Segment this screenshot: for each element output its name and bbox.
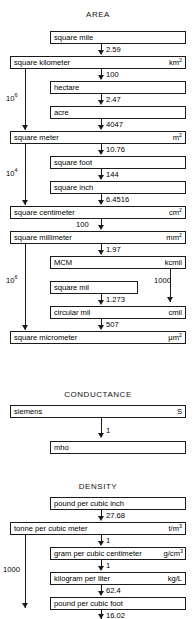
unit-label: tonne per cubic meter: [14, 525, 87, 533]
unit-box-circular-mil: circular mil cmil: [50, 306, 186, 319]
unit-box-square-mil: square mil: [50, 281, 138, 294]
unit-box-mcm: MCM kcmil: [50, 256, 186, 269]
unit-symbol: g/cm3: [164, 550, 183, 558]
bypass-line-tm3-down: [25, 535, 26, 608]
unit-label: hectare: [54, 84, 79, 92]
unit-box-acre: acre: [50, 106, 186, 119]
arrow-head-icon: [22, 125, 28, 130]
factor-hectare-to-acre: 2.47: [106, 96, 121, 104]
arrow-head-icon: [98, 100, 104, 105]
unit-box-square-inch: square inch: [50, 181, 186, 194]
arrow-head-icon: [98, 591, 104, 596]
factor-km2-to-m2: 106: [6, 95, 17, 103]
factor-mile-to-km2: 2.59: [106, 46, 121, 54]
unit-box-square-mile: square mile: [50, 31, 186, 44]
unit-symbol: S: [177, 408, 182, 416]
unit-box-square-meter: square meter m2: [10, 131, 186, 144]
unit-box-square-kilometer: square kilometer km2: [10, 56, 186, 69]
arrow-head-icon: [98, 325, 104, 330]
arrow-head-icon: [98, 125, 104, 130]
factor-mm2-to-mcm: 1.97: [106, 246, 121, 254]
factor-sqin-to-cm2: 6.4516: [106, 196, 129, 204]
arrow-head-icon: [22, 325, 28, 330]
arrow-head-icon: [98, 50, 104, 55]
factor-cmil-to-um2: 507: [106, 321, 119, 329]
unit-symbol: kg/L: [168, 575, 182, 583]
unit-symbol: t/m3: [168, 525, 182, 533]
arrow-head-icon: [22, 603, 28, 608]
factor-cm2-to-mm2: 100: [76, 221, 89, 229]
unit-label: square inch: [54, 184, 93, 192]
arrow-head-icon: [98, 200, 104, 205]
unit-label: square millimeter: [14, 234, 72, 242]
unit-symbol: kcmil: [165, 259, 182, 267]
arrow-head-icon: [98, 566, 104, 571]
factor-lbft3-to-next: 16.02: [106, 612, 125, 619]
factor-m2-to-sqft: 10.76: [106, 146, 125, 154]
factor-gcm3-to-kgl: 1: [106, 562, 110, 570]
unit-label: pound per cubic foot: [54, 600, 123, 608]
factor-tm3-to-gcm3: 1: [106, 537, 110, 545]
unit-label: mho: [54, 444, 69, 452]
arrow-head-icon: [98, 175, 104, 180]
factor-sqmil-to-cmil: 1.273: [106, 296, 125, 304]
unit-box-pound-per-cubic-foot: pound per cubic foot: [50, 597, 186, 610]
unit-label: square mile: [54, 34, 93, 42]
section-title-conductance: CONDUCTANCE: [0, 390, 196, 399]
unit-symbol: km2: [169, 59, 182, 67]
factor-mm2-to-um2: 106: [6, 277, 17, 285]
section-title-density: DENSITY: [0, 482, 196, 491]
arrow-head-icon: [98, 250, 104, 255]
factor-kgl-to-lbft3: 62.4: [106, 587, 121, 595]
unit-label: square kilometer: [14, 59, 70, 67]
arrow-head-icon: [98, 300, 104, 305]
factor-acre-to-m2: 4047: [106, 121, 123, 129]
unit-box-gram-per-cubic-centimeter: gram per cubic centimeter g/cm3: [50, 547, 186, 560]
unit-box-hectare: hectare: [50, 81, 186, 94]
unit-symbol: cmil: [169, 309, 183, 317]
arrow-head-icon: [98, 75, 104, 80]
arrow-head-icon: [22, 200, 28, 205]
unit-box-kilogram-per-liter: kilogram per liter kg/L: [50, 572, 186, 585]
unit-label: siemens: [14, 408, 42, 416]
arrow-head-icon: [98, 614, 104, 619]
unit-label: square micrometer: [14, 334, 77, 342]
unit-label: square foot: [54, 159, 92, 167]
unit-symbol: µm2: [168, 334, 182, 342]
unit-symbol: m2: [173, 134, 182, 142]
unit-box-square-foot: square foot: [50, 156, 186, 169]
section-title-area: AREA: [0, 10, 196, 19]
arrow-head-icon: [98, 433, 104, 438]
bypass-line-m2-to-cm2: [25, 144, 26, 205]
factor-sqft-to-sqin: 144: [106, 171, 119, 179]
factor-siemens-to-mho: 1: [106, 427, 110, 435]
unit-label: square mil: [54, 284, 89, 292]
bypass-line-mm2-to-um2: [25, 244, 26, 330]
unit-label: square meter: [14, 134, 59, 142]
unit-box-tonne-per-cubic-meter: tonne per cubic meter t/m3: [10, 522, 186, 535]
unit-label: kilogram per liter: [54, 575, 110, 583]
arrow-head-icon: [98, 150, 104, 155]
unit-label: pound per cubic inch: [54, 500, 124, 508]
arrow-head-icon: [167, 297, 173, 302]
unit-conversion-chart: AREA square mile 2.59 square kilometer k…: [0, 0, 196, 619]
unit-box-square-micrometer: square micrometer µm2: [10, 331, 186, 344]
factor-mcm-to-cmil: 1000: [154, 277, 171, 285]
unit-box-mho: mho: [50, 441, 186, 454]
unit-label: circular mil: [54, 309, 90, 317]
unit-box-square-centimeter: square centimeter cm2: [10, 206, 186, 219]
bypass-line-km2-to-m2: [25, 69, 26, 130]
unit-symbol: cm2: [169, 209, 182, 217]
unit-box-siemens: siemens S: [10, 405, 186, 418]
unit-label: MCM: [54, 259, 72, 267]
unit-label: square centimeter: [14, 209, 75, 217]
unit-symbol: mm2: [166, 234, 182, 242]
arrow-head-icon: [98, 541, 104, 546]
factor-km2-to-hectare: 100: [106, 71, 119, 79]
unit-label: acre: [54, 109, 69, 117]
unit-label: gram per cubic centimeter: [54, 550, 142, 558]
unit-box-square-millimeter: square millimeter mm2: [10, 231, 186, 244]
factor-lbin3-to-tm3: 27.68: [106, 512, 125, 520]
factor-m2-to-cm2: 104: [6, 170, 17, 178]
arrow-head-icon: [98, 225, 104, 230]
